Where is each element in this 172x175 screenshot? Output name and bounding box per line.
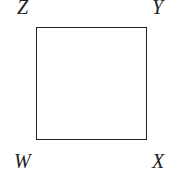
square-wxyz [36, 27, 147, 140]
vertex-label-z: Z [17, 0, 28, 17]
vertex-label-w: W [14, 151, 31, 171]
vertex-label-x: X [152, 151, 164, 171]
vertex-label-y: Y [152, 0, 163, 17]
